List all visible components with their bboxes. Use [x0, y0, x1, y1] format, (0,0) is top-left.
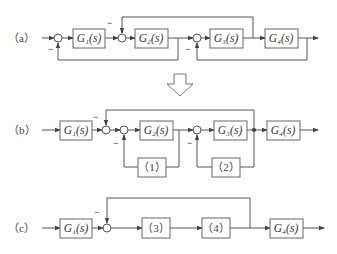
block-g1-label: G₁(s) [64, 124, 89, 137]
sign-minus: − [113, 138, 118, 148]
sign-minus: − [107, 18, 112, 28]
block-diagram: （a） G₁(s) G₂(s) G₃(s) G₄(s) − − − [0, 0, 337, 254]
block-g3-label: G₃(s) [218, 124, 243, 137]
summing-junction-1 [102, 126, 110, 134]
panel-b: （b） G₁(s) G₂(s) G₃(s) G₄(s) − （1） − （2） [8, 110, 318, 177]
sign-minus: − [187, 138, 192, 148]
panel-c: （c） G₁(s) （3） （4） G₄(s) − [8, 198, 324, 238]
summing-junction-2 [118, 34, 126, 42]
block-g2-label: G₂(s) [139, 32, 164, 45]
summing-junction-2 [120, 126, 128, 134]
block-g4-label: G₄(s) [274, 222, 299, 235]
block-g3-label: G₃(s) [214, 32, 239, 45]
sign-minus: − [94, 207, 99, 217]
block-1-label: （1） [138, 161, 166, 173]
block-g4-label: G₄(s) [271, 124, 296, 137]
sign-minus: − [185, 44, 190, 54]
block-g4-label: G₄(s) [269, 32, 294, 45]
block-4-label: （4） [202, 222, 230, 234]
block-2-label: （2） [212, 161, 240, 173]
block-g1-label: G₁(s) [64, 222, 89, 235]
panel-b-label: （b） [8, 124, 36, 136]
sign-minus: − [93, 112, 98, 122]
panel-a-label: （a） [8, 32, 35, 44]
panel-c-label: （c） [8, 222, 35, 234]
panel-a: （a） G₁(s) G₂(s) G₃(s) G₄(s) − − − [8, 17, 318, 60]
summing-junction-3 [193, 34, 201, 42]
down-arrow-icon [167, 74, 193, 96]
summing-junction-1 [54, 34, 62, 42]
sign-minus: − [48, 44, 53, 54]
block-g2-label: G₂(s) [144, 124, 169, 137]
summing-junction [103, 224, 111, 232]
block-3-label: （3） [142, 222, 170, 234]
block-g1-label: G₁(s) [77, 32, 102, 45]
summing-junction-3 [193, 126, 201, 134]
